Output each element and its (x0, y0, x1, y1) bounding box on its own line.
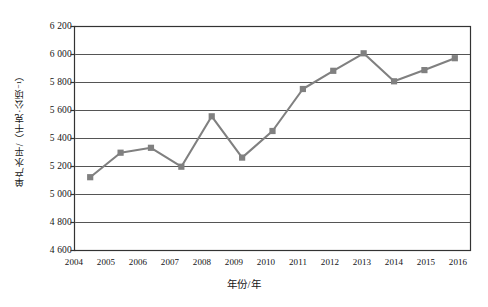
gridlines (76, 55, 471, 223)
data-point-marker (361, 50, 367, 56)
data-point-marker (87, 174, 93, 180)
chart-container: 单产水平/（千克·公顷⁻¹） 年份/年 6 200 6 000 5 800 5 … (0, 0, 488, 307)
data-point-marker (178, 164, 184, 170)
data-point-marker (239, 155, 245, 161)
data-point-marker (269, 128, 275, 134)
data-point-marker (117, 150, 123, 156)
data-point-marker (300, 86, 306, 92)
data-line (90, 53, 455, 177)
data-point-marker (148, 145, 154, 151)
data-point-marker (209, 113, 215, 119)
data-point-marker (330, 68, 336, 74)
data-point-marker (421, 67, 427, 73)
plot-area (0, 0, 488, 307)
data-markers (87, 50, 458, 180)
data-point-marker (452, 55, 458, 61)
data-point-marker (391, 78, 397, 84)
